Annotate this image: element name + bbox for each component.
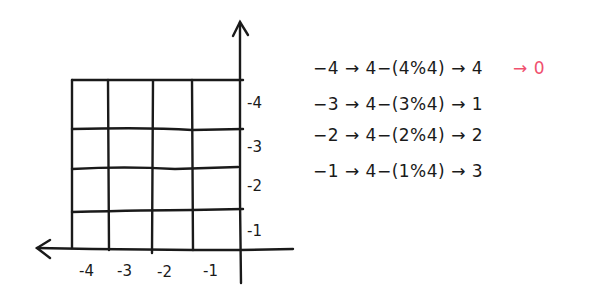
y-axis xyxy=(240,22,241,283)
grid-line-col-3 xyxy=(108,80,109,250)
x-tick-label: -2 xyxy=(157,263,172,281)
y-tick-label: -3 xyxy=(247,138,262,156)
equation-line-4: −1 → 4−(1%4) → 3 xyxy=(313,161,483,181)
grid-line-col-2 xyxy=(152,81,153,253)
grid-line-row-3 xyxy=(72,128,243,130)
equation-line-1: −4 → 4−(4%4) → 4 xyxy=(313,58,483,78)
diagram-canvas: -4 -3 -2 -1 -4 -3 -2 -1 −4 → 4−(4%4) → 4… xyxy=(0,0,603,305)
x-tick-label: -1 xyxy=(203,262,218,280)
grid-line-row-2 xyxy=(72,167,238,169)
equation-line-3: −2 → 4−(2%4) → 2 xyxy=(313,125,483,145)
equation-line-2: −3 → 4−(3%4) → 1 xyxy=(313,94,483,114)
y-tick-label: -2 xyxy=(247,177,262,195)
y-tick-label: -1 xyxy=(247,222,262,240)
grid-line-row-1 xyxy=(72,209,243,212)
grid-line-col-1 xyxy=(192,80,193,250)
x-axis xyxy=(37,248,293,250)
highlight-result: → 0 xyxy=(513,58,545,78)
x-tick-label: -3 xyxy=(117,262,132,280)
y-tick-label: -4 xyxy=(247,94,262,112)
x-tick-label: -4 xyxy=(79,262,94,280)
